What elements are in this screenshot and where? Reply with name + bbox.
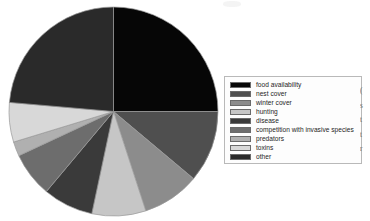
cropped-text-line: ( [360,84,370,99]
pie-chart-figure: food availability nest cover winter cove… [0,0,370,221]
cropped-text-line: t [360,113,370,128]
legend-item: hunting [230,108,357,117]
legend-swatch-predators [230,136,251,142]
legend-label: competition with invasive species [256,126,354,134]
cropped-text-line: r [360,142,370,157]
pie-slices [9,7,218,216]
legend-label: toxins [256,144,273,152]
legend-label: nest cover [256,90,287,98]
legend-label: winter cover [256,99,292,107]
cropped-text-line: t [360,128,370,143]
cropped-text-line: s [360,99,370,114]
legend-item: other [230,153,357,162]
pie-slice-food-availability [114,7,219,112]
cropped-body-text: ( s t t r [360,84,370,158]
legend-item: food availability [230,81,357,90]
legend-swatch-other [230,154,251,160]
legend-item: predators [230,135,357,144]
pie-svg [8,6,219,217]
legend-swatch-food-availability [230,82,251,88]
legend-item: competition with invasive species [230,126,357,135]
legend-item: toxins [230,144,357,153]
legend-swatch-disease [230,118,251,124]
legend-item: nest cover [230,90,357,99]
legend-swatch-competition-with-invasive-species [230,127,251,133]
legend-swatch-hunting [230,109,251,115]
legend-swatch-winter-cover [230,100,251,106]
legend-label: disease [256,117,279,125]
legend-swatch-nest-cover [230,91,251,97]
pie-slice-other [9,7,113,112]
legend-label: food availability [256,81,301,89]
legend-item: disease [230,117,357,126]
chart-legend: food availability nest cover winter cove… [224,76,362,164]
pie-chart [8,6,219,217]
legend-swatch-toxins [230,145,251,151]
page-artifact-smudge [223,1,241,7]
legend-item: winter cover [230,99,357,108]
legend-label: predators [256,135,284,143]
legend-label: other [256,153,271,161]
legend-label: hunting [256,108,278,116]
